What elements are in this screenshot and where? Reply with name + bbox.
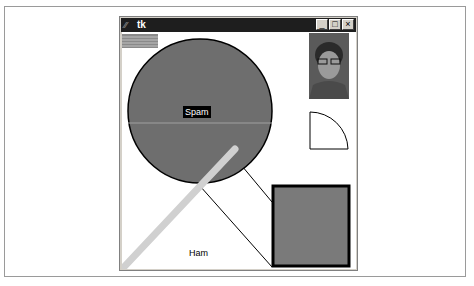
quarter-arc[interactable] — [310, 112, 348, 149]
maximize-icon: □ — [332, 19, 337, 29]
window-title: tk — [137, 18, 146, 32]
spam-label: Spam — [183, 106, 211, 118]
ham-label: Ham — [189, 247, 208, 259]
portrait-photo — [309, 33, 349, 99]
tk-feather-icon: ⁄⁄ — [124, 20, 134, 30]
title-bar[interactable]: ⁄⁄ tk _ □ × — [121, 18, 356, 32]
close-button[interactable]: × — [342, 19, 354, 30]
tk-window: ⁄⁄ tk _ □ × — [119, 16, 358, 271]
minimize-button[interactable]: _ — [316, 19, 328, 30]
diagonal-thin-line — [200, 186, 272, 267]
close-icon: × — [345, 19, 350, 29]
striped-rectangle — [122, 34, 158, 48]
minimize-icon: _ — [319, 19, 324, 29]
maximize-button[interactable]: □ — [329, 19, 341, 30]
square[interactable] — [273, 186, 349, 266]
drawing-canvas[interactable]: Spam Ham — [122, 32, 356, 269]
